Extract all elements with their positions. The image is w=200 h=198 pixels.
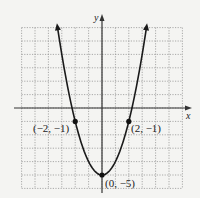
label-point-vertex: (0, −5)	[105, 177, 135, 190]
y-axis-arrow-icon	[100, 14, 105, 21]
point-vertex	[99, 172, 104, 177]
label-point-right: (2, −1)	[131, 122, 161, 135]
point-left	[73, 119, 78, 124]
x-axis-label: x	[185, 110, 191, 121]
y-axis-label: y	[93, 12, 99, 23]
label-point-left: (−2, −1)	[33, 122, 70, 135]
curve-arrow-right-icon	[143, 23, 149, 30]
x-axis	[14, 106, 192, 111]
parabola-graph: x y (−2, −1) (2, −1) (0, −5)	[0, 0, 200, 198]
curve-arrow-left-icon	[55, 23, 61, 30]
